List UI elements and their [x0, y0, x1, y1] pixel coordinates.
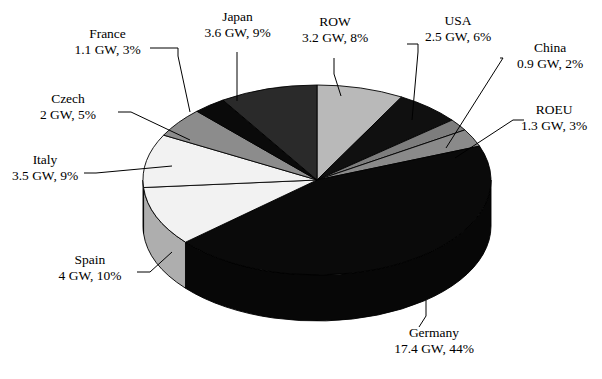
- label-value-china: 0.9 GW, 2%: [502, 56, 598, 72]
- label-name-italy: Italy: [0, 152, 90, 168]
- slice-label-italy: Italy 3.5 GW, 9%: [0, 152, 90, 184]
- label-value-usa: 2.5 GW, 6%: [410, 29, 506, 45]
- slice-label-roeu: ROEU 1.3 GW, 3%: [506, 102, 602, 134]
- label-value-czech: 2 GW, 5%: [18, 107, 118, 123]
- label-name-china: China: [502, 40, 598, 56]
- label-value-roeu: 1.3 GW, 3%: [506, 118, 602, 134]
- slice-label-usa: USA 2.5 GW, 6%: [410, 13, 506, 45]
- label-value-spain: 4 GW, 10%: [42, 268, 138, 284]
- slice-label-france: France 1.1 GW, 3%: [60, 26, 155, 58]
- label-name-roeu: ROEU: [506, 102, 602, 118]
- slice-label-china: China 0.9 GW, 2%: [502, 40, 598, 72]
- pie-chart-figure: France 1.1 GW, 3% Czech 2 GW, 5% Italy 3…: [0, 0, 602, 379]
- label-name-czech: Czech: [18, 91, 118, 107]
- leader-line-germany: [419, 300, 426, 327]
- slice-label-japan: Japan 3.6 GW, 9%: [188, 9, 287, 41]
- slice-label-spain: Spain 4 GW, 10%: [42, 252, 138, 284]
- label-name-spain: Spain: [42, 252, 138, 268]
- label-value-italy: 3.5 GW, 9%: [0, 168, 90, 184]
- label-name-france: France: [60, 26, 155, 42]
- slice-label-germany: Germany 17.4 GW, 44%: [374, 325, 494, 357]
- label-value-japan: 3.6 GW, 9%: [188, 25, 287, 41]
- slice-label-czech: Czech 2 GW, 5%: [18, 91, 118, 123]
- slice-label-row: ROW 3.2 GW, 8%: [288, 14, 382, 46]
- leader-line-china: [446, 58, 503, 148]
- label-value-row: 3.2 GW, 8%: [288, 30, 382, 46]
- label-name-usa: USA: [410, 13, 506, 29]
- label-value-france: 1.1 GW, 3%: [60, 42, 155, 58]
- label-value-germany: 17.4 GW, 44%: [374, 341, 494, 357]
- label-name-row: ROW: [288, 14, 382, 30]
- label-name-germany: Germany: [374, 325, 494, 341]
- label-name-japan: Japan: [188, 9, 287, 25]
- leader-line-france: [150, 48, 190, 112]
